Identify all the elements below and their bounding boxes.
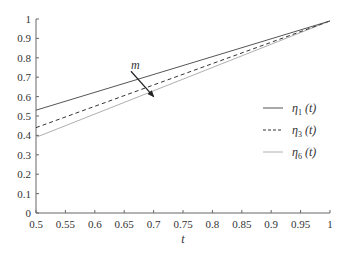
x-tick-label: 1 — [327, 218, 333, 230]
line-chart: 0.50.550.60.650.70.750.80.850.90.951 00.… — [0, 0, 344, 260]
y-tick-label: 0.8 — [17, 52, 31, 64]
y-tick-label: 0.2 — [17, 168, 31, 180]
x-tick-label: 0.9 — [264, 218, 278, 230]
y-tick-label: 0 — [26, 207, 32, 219]
y-tick-label: 0.7 — [17, 71, 31, 83]
legend-item: η6 (t) — [263, 145, 316, 161]
x-tick-label: 0.95 — [291, 218, 311, 230]
data-series — [36, 21, 330, 137]
x-axis-label: t — [181, 232, 185, 246]
annotation-label: m — [131, 58, 140, 72]
x-tick-label: 0.55 — [56, 218, 76, 230]
y-tick-label: 0.4 — [17, 129, 31, 141]
legend-item: η3 (t) — [263, 123, 316, 139]
x-tick-label: 0.85 — [232, 218, 252, 230]
x-tick-label: 0.6 — [88, 218, 102, 230]
legend: η1 (t)η3 (t)η6 (t) — [263, 101, 316, 161]
x-tick-label: 0.8 — [206, 218, 220, 230]
x-tick-label: 0.5 — [29, 218, 43, 230]
legend-label: η1 (t) — [292, 101, 316, 117]
x-tick-label: 0.75 — [173, 218, 193, 230]
y-tick-label: 0.6 — [17, 91, 31, 103]
legend-label: η6 (t) — [292, 145, 316, 161]
series-line — [36, 21, 330, 128]
y-tick-label: 0.1 — [17, 188, 31, 200]
series-line — [36, 21, 330, 110]
axes — [36, 19, 330, 213]
y-tick-label: 1 — [26, 13, 32, 25]
legend-label: η3 (t) — [292, 123, 316, 139]
series-line — [36, 21, 330, 137]
x-tick-label: 0.65 — [115, 218, 135, 230]
y-tick-label: 0.5 — [17, 110, 31, 122]
legend-item: η1 (t) — [263, 101, 316, 117]
y-tick-label: 0.9 — [17, 32, 31, 44]
y-tick-label: 0.3 — [17, 149, 31, 161]
x-tick-label: 0.7 — [147, 218, 161, 230]
